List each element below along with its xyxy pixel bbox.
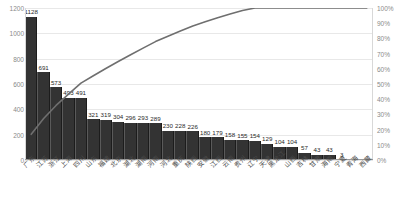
plot-area: 1128691573493491321319304296293289230228… — [25, 8, 373, 160]
y2-tick-label: 0% — [377, 157, 401, 164]
x-label-slot: 广东 — [25, 162, 37, 208]
x-label-slot: 河南 — [149, 162, 161, 208]
y-axis-left — [25, 8, 26, 160]
bar-value-label: 154 — [250, 133, 260, 139]
bar-slot[interactable]: 104 — [286, 8, 298, 160]
bar-slot[interactable]: 43 — [311, 8, 323, 160]
bar-slot[interactable]: 43 — [323, 8, 335, 160]
bar[interactable] — [25, 17, 37, 160]
bar-slot[interactable]: 304 — [112, 8, 124, 160]
y-tick-label: 0 — [2, 157, 24, 164]
y2-tick-label: 40% — [377, 96, 401, 103]
x-axis-category-labels: 广东江苏浙江上海四川山东福建北京湖北湖南河南河北重庆陕西安徽江西云南贵州辽宁天津… — [25, 162, 373, 208]
bar-value-label: 321 — [88, 112, 98, 118]
bar-slot[interactable]: 226 — [186, 8, 198, 160]
bar-slot[interactable]: 573 — [50, 8, 62, 160]
x-label-slot: 辽宁 — [249, 162, 261, 208]
bar-slot[interactable]: 493 — [62, 8, 74, 160]
bar-slot[interactable]: 1128 — [25, 8, 37, 160]
bar-slot[interactable]: 289 — [149, 8, 161, 160]
bar-slot[interactable]: 57 — [298, 8, 310, 160]
x-label-slot: 云南 — [224, 162, 236, 208]
bar-value-label: 289 — [150, 116, 160, 122]
bar-value-label: 43 — [313, 147, 320, 153]
bar-slot[interactable]: 3 — [336, 8, 348, 160]
bar-slot[interactable]: 230 — [162, 8, 174, 160]
bar-slot[interactable]: 158 — [224, 8, 236, 160]
bar-value-label: 493 — [63, 90, 73, 96]
y2-tick-label: 80% — [377, 35, 401, 42]
y-tick-label: 1200 — [2, 5, 24, 12]
y2-tick-label: 50% — [377, 81, 401, 88]
bar-slot[interactable]: 180 — [199, 8, 211, 160]
x-label-slot: 湖北 — [124, 162, 136, 208]
x-label-slot: 江苏 — [37, 162, 49, 208]
bar-value-label: 1128 — [25, 9, 38, 15]
bar-slot[interactable]: 129 — [261, 8, 273, 160]
x-label-slot: 甘肃 — [311, 162, 323, 208]
y2-tick-label: 10% — [377, 141, 401, 148]
y2-tick-label: 60% — [377, 65, 401, 72]
pareto-chart: 1128691573493491321319304296293289230228… — [0, 0, 402, 210]
bar-value-label: 293 — [138, 115, 148, 121]
bar-slot[interactable]: 321 — [87, 8, 99, 160]
x-label-slot: 西藏 — [360, 162, 372, 208]
x-label-slot: 湖南 — [137, 162, 149, 208]
bar-slot[interactable]: 319 — [100, 8, 112, 160]
bar-slot[interactable]: 179 — [211, 8, 223, 160]
bar-slot[interactable]: 104 — [273, 8, 285, 160]
y2-tick-label: 70% — [377, 50, 401, 57]
x-label-slot: 黑龙江 — [273, 162, 285, 208]
bar-value-label: 573 — [51, 80, 61, 86]
x-label-slot: 陕西 — [186, 162, 198, 208]
bar-value-label: 296 — [125, 115, 135, 121]
bar-value-label: 158 — [225, 132, 235, 138]
bar-value-label: 691 — [38, 65, 48, 71]
x-label-slot: 福建 — [100, 162, 112, 208]
y2-tick-label: 100% — [377, 5, 401, 12]
x-label-slot: 北京 — [112, 162, 124, 208]
bar-value-label: 230 — [163, 123, 173, 129]
bar-value-label: 129 — [262, 136, 272, 142]
y-tick-label: 600 — [2, 81, 24, 88]
y-tick-label: 200 — [2, 131, 24, 138]
bar-value-label: 319 — [101, 112, 111, 118]
bar-slot[interactable]: 228 — [174, 8, 186, 160]
bar-slot[interactable]: 155 — [236, 8, 248, 160]
bar-series: 1128691573493491321319304296293289230228… — [25, 8, 373, 160]
bar-slot[interactable] — [360, 8, 372, 160]
y-axis-right — [372, 8, 373, 160]
bar-value-label: 180 — [200, 130, 210, 136]
bar-value-label: 228 — [175, 123, 185, 129]
x-label-slot: 上海 — [62, 162, 74, 208]
x-label-slot: 四川 — [75, 162, 87, 208]
bar-slot[interactable]: 296 — [124, 8, 136, 160]
bar-value-label: 226 — [188, 124, 198, 130]
x-label-slot: 安徽 — [199, 162, 211, 208]
x-label-slot: 河北 — [162, 162, 174, 208]
bar-value-label: 491 — [76, 90, 86, 96]
x-label-slot: 重庆 — [174, 162, 186, 208]
bar-value-label: 179 — [212, 130, 222, 136]
y-tick-label: 1000 — [2, 30, 24, 37]
bar-slot[interactable]: 491 — [75, 8, 87, 160]
x-label-slot: 宁夏 — [336, 162, 348, 208]
bar[interactable] — [50, 87, 62, 160]
bar[interactable] — [37, 72, 49, 160]
bar[interactable] — [62, 98, 74, 160]
bar-slot[interactable] — [348, 8, 360, 160]
bar-value-label: 304 — [113, 114, 123, 120]
bar-value-label: 104 — [274, 139, 284, 145]
y-tick-label: 800 — [2, 55, 24, 62]
bar-slot[interactable]: 154 — [249, 8, 261, 160]
x-label-slot: 江西 — [211, 162, 223, 208]
y-tick-label: 400 — [2, 106, 24, 113]
bar-slot[interactable]: 293 — [137, 8, 149, 160]
x-label-slot: 贵州 — [236, 162, 248, 208]
y2-tick-label: 20% — [377, 126, 401, 133]
bar-value-label: 155 — [237, 133, 247, 139]
bar[interactable] — [75, 98, 87, 160]
bar-value-label: 104 — [287, 139, 297, 145]
x-label-slot: 吉林 — [298, 162, 310, 208]
bar-slot[interactable]: 691 — [37, 8, 49, 160]
